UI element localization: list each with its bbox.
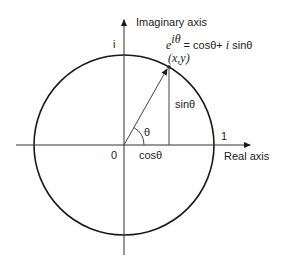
cos-label: cosθ	[139, 149, 162, 161]
theta-label: θ	[144, 126, 150, 138]
origin-label: 0	[111, 149, 117, 161]
point-label: (x,y)	[168, 51, 190, 65]
theta-arc	[134, 128, 144, 145]
real-axis-label: Real axis	[224, 150, 270, 162]
sin-label: sinθ	[175, 98, 195, 110]
one-tick-label: 1	[221, 130, 227, 142]
euler-formula: eiθ = cosθ+ i sinθ	[166, 32, 252, 52]
unit-circle-diagram: Imaginary axis Real axis i 1 0 θ cosθ si…	[0, 0, 282, 264]
imaginary-axis-label: Imaginary axis	[136, 16, 207, 28]
i-tick-label: i	[113, 38, 115, 50]
